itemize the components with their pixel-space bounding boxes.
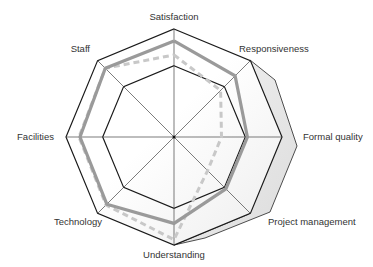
label-understanding: Understanding: [143, 249, 205, 260]
label-facilities: Facilities: [17, 131, 54, 142]
center-point: [173, 136, 176, 139]
label-project-management: Project management: [268, 216, 356, 227]
label-satisfaction: Satisfaction: [149, 11, 198, 22]
label-formal-quality: Formal quality: [303, 131, 363, 142]
label-responsiveness: Responsiveness: [239, 43, 309, 54]
radar-chart: Satisfaction Responsiveness Formal quali…: [0, 0, 373, 267]
label-staff: Staff: [71, 43, 91, 54]
label-technology: Technology: [54, 216, 102, 227]
